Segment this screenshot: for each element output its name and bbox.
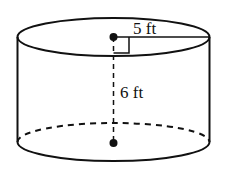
top-center-dot [110, 33, 118, 41]
bottom-center-dot [110, 139, 118, 147]
height-label: 6 ft [120, 83, 143, 102]
cylinder-figure: 5 ft 6 ft [0, 0, 227, 174]
cylinder-diagram: 5 ft 6 ft [0, 0, 227, 174]
radius-label: 5 ft [133, 19, 156, 38]
